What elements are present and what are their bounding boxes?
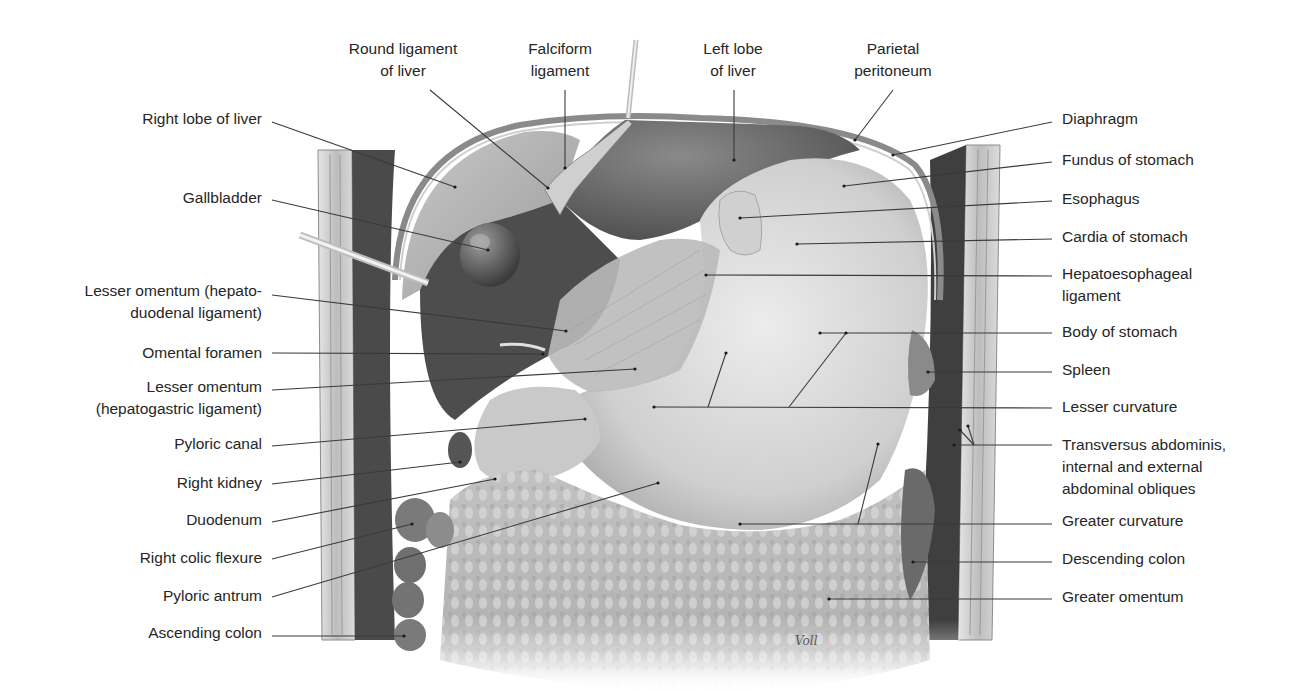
leader-dot <box>652 405 655 408</box>
label-line: ligament <box>1062 285 1192 307</box>
label-ascending-colon: Ascending colon <box>148 622 262 644</box>
pylorus-duodenum-shape <box>474 387 600 484</box>
label-line: Fundus of stomach <box>1062 149 1194 171</box>
leader-dot <box>818 331 821 334</box>
label-line: Spleen <box>1062 359 1110 381</box>
label-greater-curvature: Greater curvature <box>1062 510 1183 532</box>
leader-dot <box>724 351 727 354</box>
label-cardia-of-stomach: Cardia of stomach <box>1062 226 1188 248</box>
leader-dot <box>541 352 544 355</box>
label-pyloric-canal: Pyloric canal <box>174 433 262 455</box>
label-line: Parietal <box>813 38 973 60</box>
label-lesser-omentum-hepatogastric: Lesser omentum(hepatogastric ligament) <box>96 376 262 420</box>
leader-dot <box>966 424 969 427</box>
label-line: Pyloric antrum <box>163 585 262 607</box>
label-duodenum: Duodenum <box>186 509 262 531</box>
label-line: Pyloric canal <box>174 433 262 455</box>
label-line: Greater curvature <box>1062 510 1183 532</box>
leader-dot <box>891 153 894 156</box>
label-omental-foramen: Omental foramen <box>142 342 262 364</box>
label-round-ligament-of-liver: Round ligamentof liver <box>323 38 483 82</box>
label-right-lobe-of-liver: Right lobe of liver <box>142 108 262 130</box>
abdominal-wall-right <box>915 145 1000 640</box>
label-line: Cardia of stomach <box>1062 226 1188 248</box>
leader-dot <box>853 138 856 141</box>
label-body-of-stomach: Body of stomach <box>1062 321 1177 343</box>
label-line: of liver <box>653 60 813 82</box>
label-line: of liver <box>323 60 483 82</box>
label-line: Right kidney <box>177 472 262 494</box>
label-line: Esophagus <box>1062 188 1140 210</box>
label-right-colic-flexure: Right colic flexure <box>140 547 262 569</box>
label-gallbladder: Gallbladder <box>183 187 262 209</box>
label-line: duodenal ligament) <box>85 302 262 324</box>
gallbladder-shape <box>460 223 520 287</box>
label-line: Duodenum <box>186 509 262 531</box>
leader-dot <box>583 417 586 420</box>
label-line: Lesser curvature <box>1062 396 1177 418</box>
label-esophagus: Esophagus <box>1062 188 1140 210</box>
label-falciform-ligament: Falciformligament <box>480 38 640 82</box>
label-line: Diaphragm <box>1062 108 1138 130</box>
leader-dot <box>563 166 566 169</box>
label-line: (hepatogastric ligament) <box>96 398 262 420</box>
anatomy-figure: Voll Round ligamentof liverFalciformliga… <box>0 0 1295 691</box>
label-line: Omental foramen <box>142 342 262 364</box>
leader-dot <box>704 273 707 276</box>
label-line: Ascending colon <box>148 622 262 644</box>
label-line: Round ligament <box>323 38 483 60</box>
leader-dot <box>844 331 847 334</box>
leader-dot <box>958 428 961 431</box>
leader-dot <box>453 185 456 188</box>
leader-dot <box>458 460 461 463</box>
label-line: peritoneum <box>813 60 973 82</box>
label-right-kidney: Right kidney <box>177 472 262 494</box>
label-line: Lesser omentum (hepato- <box>85 280 262 302</box>
label-diaphragm: Diaphragm <box>1062 108 1138 130</box>
label-hepatoesophageal-ligament: Hepatoesophagealligament <box>1062 263 1192 307</box>
label-parietal-peritoneum: Parietalperitoneum <box>813 38 973 82</box>
artist-signature: Voll <box>795 634 818 648</box>
leader-dot <box>738 522 741 525</box>
leader-dot <box>738 216 741 219</box>
leader-dot <box>493 477 496 480</box>
label-line: Body of stomach <box>1062 321 1177 343</box>
label-line: Greater omentum <box>1062 586 1183 608</box>
label-lesser-omentum-hepatoduodenal: Lesser omentum (hepato-duodenal ligament… <box>85 280 262 324</box>
leader-dot <box>546 186 549 189</box>
label-line: Hepatoesophageal <box>1062 263 1192 285</box>
label-transversus-abdominis-obliques: Transversus abdominis,internal and exter… <box>1062 434 1226 500</box>
label-line: ligament <box>480 60 640 82</box>
leader-dot <box>564 329 567 332</box>
label-line: Right colic flexure <box>140 547 262 569</box>
label-line: Transversus abdominis, <box>1062 434 1226 456</box>
leader-dot <box>952 443 955 446</box>
label-line: Lesser omentum <box>96 376 262 398</box>
label-pyloric-antrum: Pyloric antrum <box>163 585 262 607</box>
leader-dot <box>402 634 405 637</box>
leader-dot <box>410 522 413 525</box>
label-line: abdominal obliques <box>1062 478 1226 500</box>
label-line: Left lobe <box>653 38 813 60</box>
label-line: Right lobe of liver <box>142 108 262 130</box>
label-line: Falciform <box>480 38 640 60</box>
abdominal-wall-left <box>318 150 395 640</box>
label-descending-colon: Descending colon <box>1062 548 1185 570</box>
leader-dot <box>633 367 636 370</box>
leader-dot <box>911 560 914 563</box>
label-spleen: Spleen <box>1062 359 1110 381</box>
label-fundus-of-stomach: Fundus of stomach <box>1062 149 1194 171</box>
label-greater-omentum: Greater omentum <box>1062 586 1183 608</box>
label-line: Descending colon <box>1062 548 1185 570</box>
leader-dot <box>926 370 929 373</box>
leader-dot <box>876 442 879 445</box>
label-left-lobe-of-liver: Left lobeof liver <box>653 38 813 82</box>
label-line: internal and external <box>1062 456 1226 478</box>
leader-dot <box>486 248 489 251</box>
label-lesser-curvature: Lesser curvature <box>1062 396 1177 418</box>
leader-dot <box>795 242 798 245</box>
label-line: Gallbladder <box>183 187 262 209</box>
leader-dot <box>732 158 735 161</box>
leader-dot <box>827 597 830 600</box>
leader-line <box>855 90 893 140</box>
